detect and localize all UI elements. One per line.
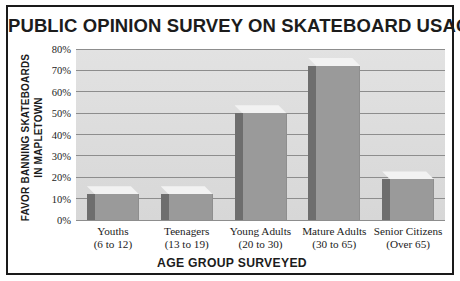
bar-top-face	[87, 186, 139, 194]
y-axis-tick-label: 50%	[52, 108, 71, 119]
bar-side-face	[235, 113, 243, 220]
bar	[169, 194, 213, 220]
y-axis-tick-label: 0%	[57, 215, 71, 226]
gridline	[76, 70, 445, 71]
bar-side-face	[87, 194, 95, 220]
y-axis-tick-label: 60%	[52, 86, 71, 97]
chart-frame: PUBLIC OPINION SURVEY ON SKATEBOARD USAG…	[6, 5, 454, 275]
y-axis-tick-label: 30%	[52, 150, 71, 161]
bar-top-face	[308, 58, 360, 66]
plot-area: 0%10%20%30%40%50%60%70%80%	[76, 49, 445, 220]
x-axis-category-label: Senior Citizens(Over 65)	[365, 225, 451, 251]
gridline	[76, 91, 445, 92]
bar-side-face	[382, 179, 390, 220]
bar-side-face	[161, 194, 169, 220]
gridline	[76, 49, 445, 50]
bar-front-face	[390, 179, 434, 220]
chart-title: PUBLIC OPINION SURVEY ON SKATEBOARD USAG…	[8, 15, 456, 37]
bar	[316, 66, 360, 220]
y-axis-tick-label: 10%	[52, 193, 71, 204]
bar-side-face	[308, 66, 316, 220]
bar-front-face	[169, 194, 213, 220]
x-axis-title: AGE GROUP SURVEYED	[8, 256, 456, 270]
bar	[95, 194, 139, 220]
y-axis-tick-label: 40%	[52, 129, 71, 140]
bar-front-face	[95, 194, 139, 220]
chart-screenshot: PUBLIC OPINION SURVEY ON SKATEBOARD USAG…	[0, 0, 460, 281]
bar-front-face	[316, 66, 360, 220]
bar-top-face	[382, 171, 434, 179]
y-axis-tick-label: 80%	[52, 44, 71, 55]
bar-top-face	[235, 105, 287, 113]
y-axis-title: FAVOR BANNING SKATEBOARDS IN MAPLETOWN	[20, 48, 45, 228]
bar-top-face	[161, 186, 213, 194]
y-axis-tick-label: 20%	[52, 172, 71, 183]
x-axis-category-name: Senior Citizens	[365, 225, 451, 238]
bar	[390, 179, 434, 220]
y-axis-title-line-2: IN MAPLETOWN	[32, 48, 45, 228]
bar-front-face	[243, 113, 287, 220]
y-axis-title-line-1: FAVOR BANNING SKATEBOARDS	[20, 48, 33, 228]
x-axis-category-range: (Over 65)	[365, 238, 451, 251]
y-axis-tick-label: 70%	[52, 65, 71, 76]
bar	[243, 113, 287, 220]
